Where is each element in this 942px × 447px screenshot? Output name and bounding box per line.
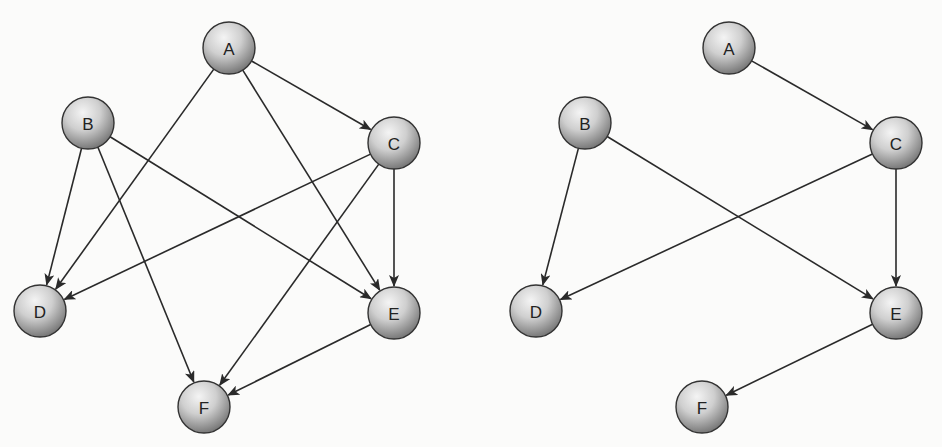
edge-c-to-d [560,154,872,300]
edge-b-to-e [607,137,873,299]
edge-b-to-f [98,147,194,382]
node-label: F [199,399,209,418]
node-b: B [559,97,611,149]
node-label: B [579,115,590,134]
edge-b-to-d [47,148,82,285]
edge-b-to-d [543,148,579,285]
node-label: B [82,115,93,134]
reduced-graph: ABCDEF [510,22,922,433]
edge-c-to-f [220,164,379,385]
edge-a-to-c [252,61,371,130]
node-label: C [890,135,902,154]
node-c: C [368,117,420,169]
node-label: D [530,303,542,322]
node-d: D [510,285,562,337]
node-label: E [388,305,399,324]
node-label: D [34,303,46,322]
node-f: F [178,381,230,433]
node-label: C [388,135,400,154]
node-label: A [223,40,235,59]
diagram-canvas: ABCDEF ABCDEF [0,0,942,447]
node-label: A [723,40,735,59]
node-label: F [697,399,707,418]
node-d: D [14,285,66,337]
node-a: A [203,22,255,74]
node-label: E [890,305,901,324]
node-e: E [368,287,420,339]
edge-a-to-c [752,61,873,130]
full-graph: ABCDEF [14,22,420,433]
node-a: A [703,22,755,74]
edge-e-to-f [228,325,370,395]
node-e: E [870,287,922,339]
edge-e-to-f [726,324,872,395]
node-f: F [676,381,728,433]
node-b: B [62,97,114,149]
node-c: C [870,117,922,169]
